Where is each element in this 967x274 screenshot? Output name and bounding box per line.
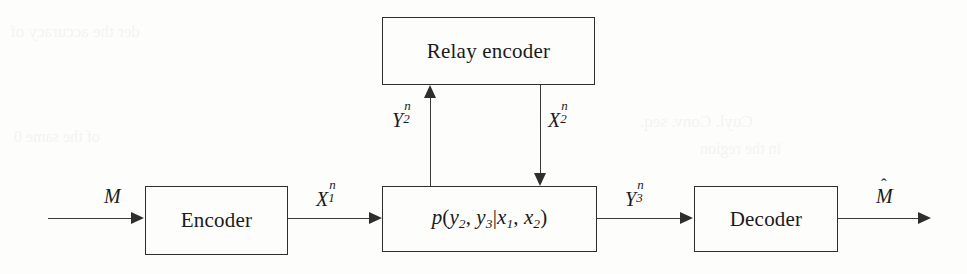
signal-y3n-sup: n xyxy=(637,178,644,191)
signal-y2n-sub: 2 xyxy=(403,112,410,125)
arrowhead-channel-to-decoder xyxy=(680,212,693,224)
channel-y2: y xyxy=(449,205,458,229)
signal-label-y3n: Yn3 xyxy=(625,186,645,209)
connector-input-to-encoder xyxy=(48,218,133,219)
relay-encoder-label: Relay encoder xyxy=(427,41,550,62)
connector-decoder-to-output xyxy=(838,218,919,219)
signal-label-message-in: M xyxy=(104,186,121,206)
figure-canvas: der the accuracy of of the same 0 Cuyl. … xyxy=(0,0,967,274)
bleed-through-text-4: in the region xyxy=(700,140,781,158)
arrowhead-encoder-to-channel xyxy=(369,212,382,224)
connector-channel-to-decoder xyxy=(597,218,681,219)
decoder-label: Decoder xyxy=(730,209,803,230)
channel-p: p xyxy=(432,205,443,229)
arrowhead-decoder-to-output xyxy=(918,212,931,224)
connector-encoder-to-channel xyxy=(288,218,370,219)
signal-x1n-sub: 1 xyxy=(328,191,335,204)
hat-accent-mark: ˆ xyxy=(881,176,887,193)
signal-label-x1n: Xn1 xyxy=(316,186,337,209)
bleed-through-text-3: Cuyl. Conv. seq. xyxy=(640,112,753,132)
channel-close-paren: ) xyxy=(540,205,547,229)
channel-block[interactable]: p(y2, y3|x1, x2) xyxy=(382,186,597,252)
signal-y3n-base: Y xyxy=(625,188,636,210)
signal-label-x2n: Xn2 xyxy=(548,107,569,130)
channel-transition-probability-label: p(y2, y3|x1, x2) xyxy=(432,205,548,232)
signal-message-in-base: M xyxy=(104,185,121,207)
channel-comma-2: , xyxy=(513,205,524,229)
signal-y3n-sub: 3 xyxy=(636,191,643,204)
signal-x1n-base: X xyxy=(316,188,328,210)
signal-x2n-base: X xyxy=(548,109,560,131)
signal-label-message-out: ˆM xyxy=(876,186,893,206)
relay-encoder-block[interactable]: Relay encoder xyxy=(382,17,595,85)
signal-x1n-sup: n xyxy=(329,178,336,191)
signal-x2n-sup: n xyxy=(561,99,568,112)
arrowhead-channel-to-relay xyxy=(424,85,436,98)
signal-y2n-sup: n xyxy=(404,99,411,112)
signal-label-y2n: Yn2 xyxy=(392,107,412,130)
channel-y3-sub: 3 xyxy=(486,217,493,232)
decoder-block[interactable]: Decoder xyxy=(694,186,838,252)
connector-relay-to-channel xyxy=(540,85,541,174)
channel-x2: x xyxy=(524,205,533,229)
encoder-label: Encoder xyxy=(181,210,252,231)
arrowhead-input-to-encoder xyxy=(131,212,144,224)
channel-y3: y xyxy=(476,205,485,229)
signal-x2n-sub: 2 xyxy=(560,112,567,125)
encoder-block[interactable]: Encoder xyxy=(145,186,288,255)
signal-message-out-hatted: ˆM xyxy=(876,186,893,206)
channel-comma-1: , xyxy=(466,205,477,229)
connector-channel-to-relay xyxy=(430,97,431,186)
bleed-through-text-1: der the accuracy of xyxy=(10,22,140,42)
arrowhead-relay-to-channel xyxy=(534,173,546,186)
signal-y2n-base: Y xyxy=(392,109,403,131)
channel-x1: x xyxy=(497,205,506,229)
bleed-through-text-2: of the same 0 xyxy=(14,128,100,146)
channel-y2-sub: 2 xyxy=(459,217,466,232)
